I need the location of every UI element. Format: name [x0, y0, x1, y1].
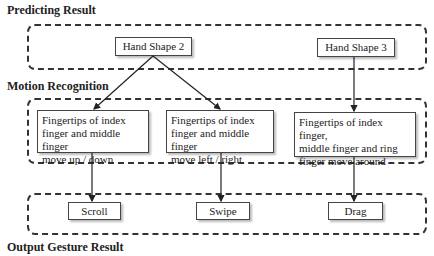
- edges: [0, 0, 434, 256]
- edge-hs2-motion2: [153, 56, 220, 109]
- edge-hs2-motion1: [94, 56, 153, 109]
